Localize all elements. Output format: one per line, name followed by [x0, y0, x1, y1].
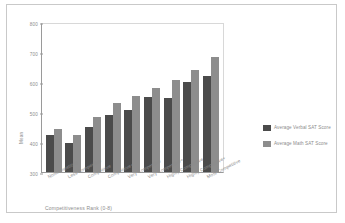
legend-color-swatch — [263, 125, 271, 131]
y-axis-tick-label: 500 — [30, 112, 38, 117]
y-axis-tick-label: 700 — [30, 52, 38, 57]
x-axis-title: Competitiveness Rank (0-8) — [45, 205, 112, 211]
legend-label: Average Verbal SAT Score — [274, 125, 331, 132]
y-axis-tick-label: 800 — [30, 22, 38, 27]
bar[interactable] — [54, 129, 62, 172]
bar[interactable] — [113, 103, 121, 172]
bar-group — [65, 24, 81, 172]
y-axis-title: Mean — [19, 132, 24, 144]
bar[interactable] — [211, 57, 219, 173]
bar-group — [85, 24, 101, 172]
chart-legend: Average Verbal SAT ScoreAverage Math SAT… — [263, 125, 341, 156]
y-axis-tick-mark — [40, 174, 43, 175]
legend-item[interactable]: Average Math SAT Score — [263, 141, 341, 148]
bar[interactable] — [164, 98, 172, 172]
bar-group — [124, 24, 140, 172]
y-axis-tick-label: 600 — [30, 82, 38, 87]
bars-layer — [42, 24, 223, 172]
bar[interactable] — [183, 82, 191, 172]
y-axis-tick-label: 400 — [30, 142, 38, 147]
bar[interactable] — [191, 70, 199, 172]
legend-item[interactable]: Average Verbal SAT Score — [263, 125, 341, 132]
bar-group — [203, 24, 219, 172]
bar-group — [105, 24, 121, 172]
y-axis-tick-label: 300 — [30, 172, 38, 177]
bar-group — [144, 24, 160, 172]
legend-label: Average Math SAT Score — [274, 141, 328, 148]
bar-group — [46, 24, 62, 172]
bar-group — [164, 24, 180, 172]
legend-color-swatch — [263, 141, 271, 147]
plot-area: 300400500600700800 — [41, 23, 224, 173]
bar[interactable] — [132, 96, 140, 172]
chart-frame: Mean 300400500600700800 NoncompetitiveLe… — [6, 4, 337, 213]
bar[interactable] — [144, 97, 152, 172]
bar[interactable] — [203, 76, 211, 172]
bar-group — [183, 24, 199, 172]
bar[interactable] — [46, 135, 54, 172]
